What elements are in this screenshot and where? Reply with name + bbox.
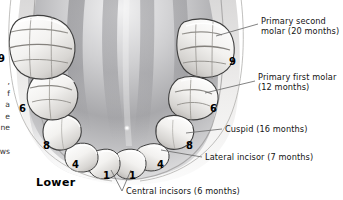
tooth-right-second-molar [177, 19, 234, 79]
cropped-margin-text: , f a e ne ws [0, 76, 10, 157]
callout-primary-first-molar: Primary first molar (12 months) [258, 72, 343, 93]
number-right-central-incisor: 1 [129, 170, 136, 181]
callout-cuspid: Cuspid (16 months) [225, 124, 340, 134]
number-left-lateral-incisor: 4 [72, 159, 79, 170]
callout-primary-second-molar: Primary second molar (20 months) [261, 16, 343, 37]
view-label-lower: Lower [36, 176, 76, 189]
tooth-left-second-molar [9, 15, 75, 80]
callout-lateral-incisor: Lateral incisor (7 months) [205, 152, 343, 162]
number-right-lateral-incisor: 4 [157, 159, 164, 170]
callout-central-incisors: Central incisors (6 months) [126, 186, 276, 196]
number-left-cuspid: 8 [43, 140, 50, 151]
dental-arch-figure: Primary second molar (20 months) Primary… [0, 0, 343, 200]
number-right-second-molar: 9 [229, 56, 236, 67]
number-right-first-molar: 6 [210, 103, 217, 114]
number-right-cuspid: 8 [186, 140, 193, 151]
number-left-first-molar: 6 [19, 103, 26, 114]
number-left-second-molar-cropped: 9 [0, 53, 5, 64]
number-left-central-incisor: 1 [103, 170, 110, 181]
